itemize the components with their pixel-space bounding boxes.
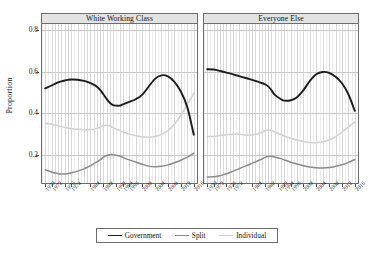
legend-label: Government: [125, 232, 161, 239]
series-line-government: [207, 69, 355, 111]
series-line-individual: [207, 122, 355, 143]
y-axis-tick-label: 0.2: [14, 151, 38, 159]
series-layer: [42, 24, 197, 184]
legend-item-split[interactable]: Split: [175, 232, 206, 239]
y-axis-tick-mark: [36, 113, 39, 114]
panel-white-working-class: White Working Class: [41, 13, 198, 184]
y-axis-tick-label: 0.8: [14, 26, 38, 34]
vertical-gridline-minor: [197, 24, 198, 183]
chart-figure: Proportion 0.20.40.60.8 White Working Cl…: [0, 0, 373, 253]
legend-swatch-individual: [219, 235, 233, 236]
legend-item-individual[interactable]: Individual: [219, 232, 266, 239]
y-axis-tick-label: 0.6: [14, 68, 38, 76]
y-axis-tick-mark: [36, 72, 39, 73]
legend-label: Split: [192, 232, 206, 239]
legend-item-government[interactable]: Government: [108, 232, 161, 239]
y-axis-tick-mark: [36, 155, 39, 156]
series-line-split: [45, 153, 194, 174]
series-line-split: [207, 156, 355, 177]
legend-swatch-government: [108, 235, 122, 236]
legend-label: Individual: [236, 232, 266, 239]
panel-everyone-else: Everyone Else: [203, 13, 359, 184]
y-axis-tick-label: 0.4: [14, 110, 38, 118]
y-axis-tick-labels: 0.20.40.60.8: [12, 0, 38, 253]
series-layer: [204, 24, 358, 184]
legend: GovernmentSplitIndividual: [96, 228, 278, 243]
plot-area: [41, 24, 198, 184]
y-axis-tick-mark: [36, 30, 39, 31]
series-line-individual: [45, 93, 194, 137]
plot-area: [203, 24, 359, 184]
series-line-government: [45, 75, 194, 135]
panel-title: White Working Class: [41, 13, 198, 24]
legend-swatch-split: [175, 235, 189, 236]
vertical-gridline-minor: [358, 24, 359, 183]
panel-title: Everyone Else: [203, 13, 359, 24]
